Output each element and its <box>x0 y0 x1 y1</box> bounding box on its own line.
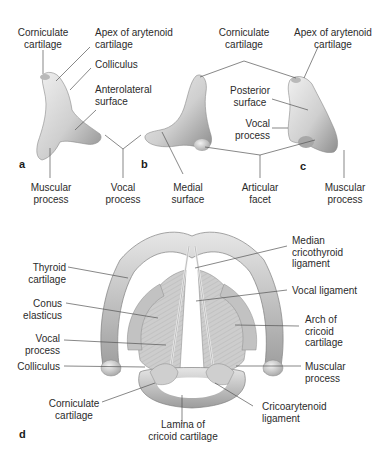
panel-label-a: a <box>19 158 25 170</box>
label-muscular-process-d: Muscular process <box>305 361 346 384</box>
label-colliculus-a: Colliculus <box>95 59 138 71</box>
label-cricoarytenoid-ligament: Cricoarytenoid ligament <box>262 401 326 424</box>
larynx-superior-view-shape <box>101 232 283 408</box>
arytenoid-c-shape <box>288 77 337 153</box>
label-lamina-cricoid: Lamina of cricoid cartilage <box>140 419 226 442</box>
label-articular-facet: Articular facet <box>236 182 284 205</box>
label-muscular-process-a: Muscular process <box>25 182 77 205</box>
label-vocal-ligament: Vocal ligament <box>292 285 357 297</box>
label-medial-surface: Medial surface <box>165 182 211 205</box>
label-corniculate-cartilage-d: Corniculate cartilage <box>44 398 104 421</box>
label-apex-arytenoid-a: Apex of arytenoid cartilage <box>95 27 173 50</box>
label-posterior-surface: Posterior surface <box>228 85 272 108</box>
label-muscular-process-c: Muscular process <box>318 182 372 205</box>
label-vocal-process-c: Vocal process <box>226 118 270 141</box>
arytenoid-b-shape <box>145 75 212 151</box>
label-corniculate-cartilage-a: Corniculate cartilage <box>12 27 74 50</box>
label-apex-arytenoid-c: Apex of arytenoid cartilage <box>288 27 378 50</box>
label-anterolateral-surface: Anterolateral surface <box>95 84 152 107</box>
label-vocal-process-d: Vocal process <box>10 333 60 356</box>
label-corniculate-cartilage-bc: Corniculate cartilage <box>210 27 278 50</box>
panel-label-b: b <box>141 158 148 170</box>
label-arch-cricoid: Arch of cricoid cartilage <box>305 314 343 349</box>
label-thyroid-cartilage: Thyroid cartilage <box>10 262 66 285</box>
label-vocal-process-ab: Vocal process <box>98 182 148 205</box>
panel-label-d: d <box>19 428 26 440</box>
label-colliculus-d: Colliculus <box>4 361 60 373</box>
arytenoid-a-shape <box>37 72 101 160</box>
panel-label-c: c <box>300 160 306 172</box>
label-conus-elasticus: Conus elasticus <box>10 298 62 321</box>
label-median-cricothyroid-ligament: Median cricothyroid ligament <box>292 235 343 270</box>
